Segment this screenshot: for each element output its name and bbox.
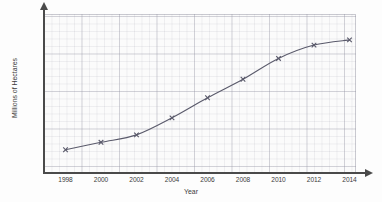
data-point-2004	[170, 116, 175, 121]
data-point-2008	[241, 77, 246, 82]
data-point-2010	[276, 56, 281, 61]
chart-container: 0 20 40 60 80 100 120 140 160 180 1998 2…	[0, 0, 382, 202]
series-line	[66, 40, 350, 150]
data-point-2006	[205, 95, 210, 100]
series-markers	[63, 38, 352, 152]
data-series-layer	[0, 0, 382, 202]
